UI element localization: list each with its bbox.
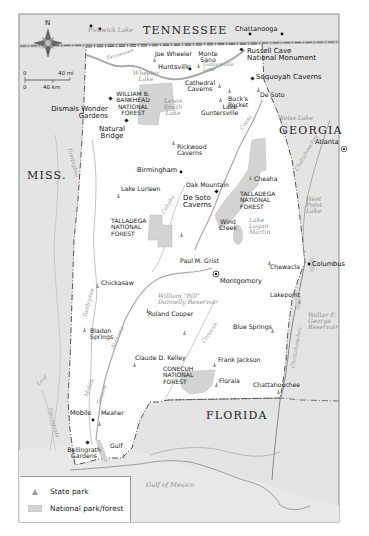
site-bellingrath-gardens: Bellingrath Gardens: [66, 447, 102, 459]
legend-label-state-park: State park: [50, 487, 88, 496]
site-russell-cave: Russell Cave National Monument: [247, 48, 317, 63]
state-label-tennessee: TENNESSEE: [143, 25, 227, 36]
water-gulf-of-mexico: Gulf of Mexico: [146, 482, 194, 489]
compass-north-label: N: [45, 20, 50, 27]
park-meaher: Meaher: [101, 410, 124, 416]
alabama-map: TENNESSEE GEORGIA MISS. FLORIDA N 0 40 m…: [0, 0, 369, 536]
park-florala: Florala: [219, 378, 240, 384]
park-chewacla: Chewacla: [270, 264, 300, 270]
state-label-florida: FLORIDA: [206, 410, 268, 421]
park-blue-springs: Blue Springs: [233, 324, 272, 330]
park-roland-cooper: Roland Cooper: [148, 311, 193, 317]
park-de-soto: De Soto: [260, 92, 284, 98]
city-columbus: Columbus: [312, 261, 345, 268]
city-huntsville: Huntsville: [158, 64, 191, 71]
park-joe-wheeler: Joe Wheeler: [155, 51, 192, 57]
forest-bankhead: WILLIAM B. BANKHEAD NATIONAL FOREST: [110, 91, 156, 116]
park-lake-lurleen: Lake Lurleen: [121, 186, 160, 192]
forest-conecuh: CONECUH NATIONAL FOREST: [163, 366, 199, 385]
park-monte-sano: Monte Sano: [197, 51, 219, 63]
scale-mi-start: 0: [23, 71, 27, 77]
legend-item-national-park-forest: National park/forest: [28, 504, 123, 513]
park-lakepoint: Lakepoint: [270, 292, 300, 298]
site-natural-bridge: Natural Bridge: [97, 126, 127, 141]
water-dannelly-reservoir: William "Bill" Dannelly Reservoir: [158, 293, 220, 305]
park-gulf: Gulf: [110, 443, 123, 449]
state-label-mississippi: MISS.: [27, 170, 67, 181]
forest-talladega-north: TALLADEGA NATIONAL FOREST: [240, 191, 280, 210]
water-weiss-lake: Weiss Lake: [278, 115, 313, 121]
state-park-icon: [28, 488, 42, 496]
park-bladon-springs: Bladon Springs: [90, 328, 114, 340]
water-wheeler-lake: Wheeler Lake: [130, 70, 162, 82]
forest-talladega-south: TALLADEGA NATIONAL FOREST: [111, 218, 151, 237]
park-rickwood-caverns: Rickwood Caverns: [177, 144, 209, 156]
park-paul-m-grist: Paul M. Grist: [180, 258, 219, 264]
site-dismals-wonder-gardens: Dismals Wonder Gardens: [50, 106, 108, 121]
park-cathedral-caverns: Cathedral Caverns: [182, 80, 218, 92]
park-frank-jackson: Frank Jackson: [218, 357, 260, 363]
city-montgomery: Montgomery: [220, 278, 262, 285]
water-lewis-smith-lake: Lewis Smith Lake: [162, 98, 184, 117]
site-sequoyah-caverns: Sequoyah Caverns: [256, 74, 321, 81]
park-claude-d-kelley: Claude D. Kelley: [135, 355, 186, 361]
site-oak-mountain: Oak Mountain: [186, 182, 229, 188]
park-chickasaw: Chickasaw: [101, 280, 134, 286]
water-lake-logan-martin: Lake Logan Martin: [249, 217, 273, 236]
scale-mi-end: 40 mi: [58, 71, 74, 77]
city-mobile: Mobile: [70, 410, 92, 417]
scale-km-start: 0: [23, 85, 27, 91]
legend-label-national-park-forest: National park/forest: [50, 504, 123, 513]
water-walter-george-reservoir: Walter F. George Reservoir: [308, 312, 340, 331]
park-cheaha: Cheaha: [254, 176, 278, 182]
water-west-point-lake: West Point Lake: [306, 196, 338, 215]
national-forest-swatch-icon: [28, 505, 42, 512]
water-pickwick-lake: Pickwick Lake: [88, 27, 118, 33]
legend-item-state-park: State park: [28, 487, 88, 496]
site-de-soto-caverns: De Soto Caverns: [183, 195, 219, 210]
city-birmingham: Birmingham: [137, 167, 177, 174]
state-label-georgia: GEORGIA: [279, 125, 343, 136]
water-guntersville-lake: Guntersville Lake: [203, 62, 241, 72]
park-wind-creek: Wind Creek: [217, 219, 239, 231]
park-lake-guntersville: Lake Guntersville: [201, 104, 237, 116]
city-atlanta: Atlanta: [315, 139, 339, 146]
scale-km-end: 40 km: [43, 85, 60, 91]
park-chattahoochee: Chattahoochee: [253, 382, 300, 388]
map-legend: State park National park/forest: [20, 476, 131, 522]
city-chattanooga: Chattanooga: [235, 26, 278, 33]
